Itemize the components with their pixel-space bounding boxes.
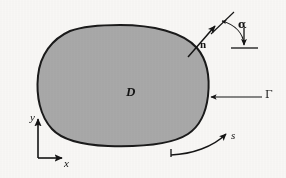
angle-label-alpha: α bbox=[238, 19, 246, 30]
region-D-shape bbox=[38, 25, 209, 146]
boundary-label-gamma: Γ bbox=[265, 89, 273, 100]
y-axis-label: y bbox=[30, 112, 35, 123]
figure-canvas: D n α Γ s y x bbox=[0, 0, 286, 178]
arclength-label-s: s bbox=[231, 130, 235, 141]
normal-vector-label-n: n bbox=[200, 39, 206, 50]
region-label-D: D bbox=[126, 85, 135, 98]
angle-reference-stroke bbox=[211, 12, 234, 34]
x-axis-label: x bbox=[64, 158, 69, 169]
